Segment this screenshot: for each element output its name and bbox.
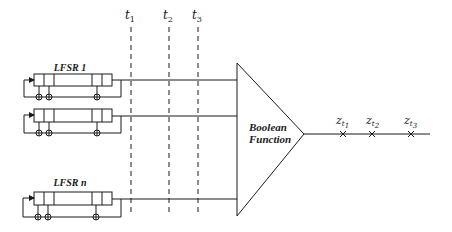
lfsr-n-label: LFSR n [52, 177, 87, 188]
xor-gate-icon [94, 130, 100, 136]
lfsr-2 [24, 109, 237, 136]
xor-gate-icon [94, 94, 100, 100]
xor-gate-icon [35, 214, 41, 220]
xor-gate-icon [46, 94, 52, 100]
time-labels: t1 t2 t3 [125, 8, 202, 24]
xor-gate-icon [93, 214, 99, 220]
xor-gate-icon [45, 214, 51, 220]
output-label-z3: zt3 [403, 114, 418, 130]
combiner-label-line2: Function [248, 133, 291, 145]
xor-gate-icon [46, 130, 52, 136]
time-label-t3: t3 [192, 8, 202, 24]
output-label-z1: zt1 [335, 114, 349, 130]
shift-register-box [34, 109, 112, 122]
xor-gate-icon [36, 94, 42, 100]
time-label-t1: t1 [125, 8, 135, 24]
lfsr-1-label: LFSR 1 [53, 62, 87, 73]
keystream-output: zt1 zt2 zt3 [304, 114, 430, 137]
shift-register-box [34, 192, 112, 205]
time-label-t2: t2 [163, 8, 173, 24]
shift-register-box [34, 74, 112, 86]
xor-gate-icon [36, 130, 42, 136]
lfsr-n: LFSR n [23, 177, 237, 220]
combiner-label-line1: Boolean [248, 121, 287, 133]
boolean-function-block: Boolean Function [237, 63, 304, 216]
output-label-z2: zt2 [365, 114, 380, 130]
time-marker-lines [131, 27, 198, 214]
lfsr-diagram: t1 t2 t3 LFSR 1 [0, 0, 452, 232]
